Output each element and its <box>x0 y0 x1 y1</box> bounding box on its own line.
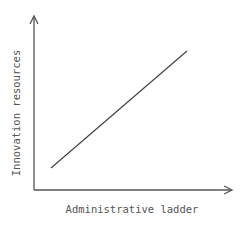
trend-line <box>51 51 187 168</box>
diagram-canvas: Administrative ladder Innovation resourc… <box>0 0 249 225</box>
x-axis-label: Administrative ladder <box>66 203 199 215</box>
y-axis-label: Innovation resources <box>10 50 22 176</box>
